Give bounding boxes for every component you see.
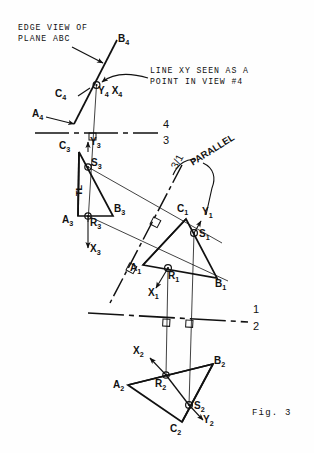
point-label-S3: S3 [91, 157, 102, 171]
point-label-Y4X4: Y4X4 [98, 85, 122, 99]
figure-sheet: EDGE VIEW OF PLANE ABC LINE XY SEEN AS A… [0, 0, 314, 453]
point-label-R1: R1 [168, 270, 179, 284]
point-label-R3: R3 [90, 217, 101, 231]
point-label-Y2: Y2 [203, 414, 214, 428]
point-label-A2: A2 [113, 379, 124, 393]
point-label-S2: S2 [194, 400, 205, 414]
point-label-R2: R2 [155, 378, 166, 392]
fold-label-2: 2 [248, 320, 264, 332]
fold-label-1: 1 [248, 303, 264, 315]
annotation-line-xy-point: LINE XY SEEN AS A POINT IN VIEW #4 [150, 65, 249, 87]
point-label-X2: X2 [133, 345, 144, 359]
point-label-S1: S1 [199, 228, 210, 242]
point-label-X1: X1 [148, 287, 159, 301]
point-label-C2: C2 [170, 423, 181, 437]
annotation-edge-view: EDGE VIEW OF PLANE ABC [18, 22, 88, 44]
fold-label-3: 3 [158, 134, 174, 146]
point-label-C1: C1 [177, 203, 188, 217]
point-label-A1: A1 [130, 262, 141, 276]
point-label-X3: X3 [90, 243, 101, 257]
figure-caption: Fig. 3 [252, 408, 292, 418]
fold-line-1-2 [88, 313, 248, 327]
point-label-B3: B3 [114, 203, 125, 217]
point-label-B4: B4 [118, 33, 129, 47]
point-label-Y3: Y3 [90, 136, 101, 150]
fold-label-4: 4 [158, 118, 174, 130]
annotation-true-length: TL [74, 185, 84, 196]
point-label-B1: B1 [215, 278, 226, 292]
point-label-Y1: Y1 [202, 206, 213, 220]
view-4-geometry [46, 40, 148, 222]
point-label-C3: C3 [59, 140, 70, 154]
point-label-C4: C4 [55, 88, 66, 102]
point-label-A3: A3 [62, 214, 73, 228]
point-label-B2: B2 [214, 355, 225, 369]
point-label-A4: A4 [32, 108, 43, 122]
